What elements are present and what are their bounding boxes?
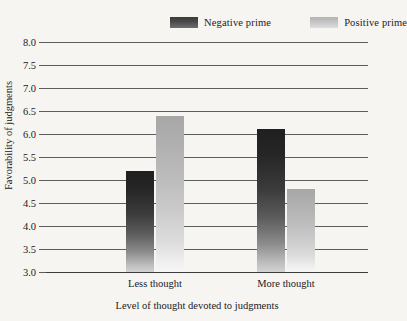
x-axis-category-label: More thought: [257, 278, 314, 289]
y-axis-tick: [39, 134, 46, 135]
gridline: [46, 180, 368, 181]
y-axis-tick: [39, 180, 46, 181]
y-axis-tick-label: 5.5: [23, 152, 36, 163]
y-axis-tick-label: 6.5: [23, 106, 36, 117]
gridline: [46, 42, 368, 43]
y-axis-tick-label: 7.5: [23, 60, 36, 71]
y-axis-tick: [39, 88, 46, 89]
legend-label-negative-prime: Negative prime: [204, 17, 271, 28]
y-axis-title: Favorability of judgments: [3, 6, 14, 266]
gridline: [46, 65, 368, 66]
legend-entry-positive-prime: Positive prime: [310, 17, 407, 28]
gridline: [46, 88, 368, 89]
y-axis-tick-label: 8.0: [23, 37, 36, 48]
y-axis-tick: [39, 65, 46, 66]
bar: [287, 189, 315, 272]
y-axis-tick-label: 3.5: [23, 244, 36, 255]
positive-prime-swatch: [310, 17, 338, 28]
gridline: [46, 134, 368, 135]
legend-label-positive-prime: Positive prime: [344, 17, 407, 28]
plot-area: 8.07.57.06.56.05.55.04.54.03.53.0: [46, 42, 368, 272]
negative-prime-swatch: [170, 17, 198, 28]
gridline: [46, 272, 368, 273]
y-axis-tick-label: 6.0: [23, 129, 36, 140]
gridline: [46, 157, 368, 158]
y-axis-tick-label: 4.5: [23, 198, 36, 209]
y-axis-tick: [39, 42, 46, 43]
gridline: [46, 249, 368, 250]
y-axis-tick: [39, 226, 46, 227]
y-axis-tick: [39, 203, 46, 204]
gridline: [46, 111, 368, 112]
y-axis-tick-label: 5.0: [23, 175, 36, 186]
x-axis-category-label: Less thought: [128, 278, 182, 289]
legend-entry-negative-prime: Negative prime: [170, 17, 271, 28]
bar: [126, 171, 154, 272]
gridline: [46, 203, 368, 204]
y-axis-tick-label: 4.0: [23, 221, 36, 232]
bar: [156, 116, 184, 272]
y-axis-tick: [39, 157, 46, 158]
bar: [257, 129, 285, 272]
x-axis-title: Level of thought devoted to judgments: [0, 300, 394, 311]
y-axis-tick-label: 7.0: [23, 83, 36, 94]
y-axis-tick: [39, 249, 46, 250]
y-axis-tick-label: 3.0: [23, 267, 36, 278]
y-axis-tick: [39, 272, 46, 273]
chart-legend: Negative prime Positive prime: [170, 12, 385, 32]
gridline: [46, 226, 368, 227]
y-axis-tick: [39, 111, 46, 112]
